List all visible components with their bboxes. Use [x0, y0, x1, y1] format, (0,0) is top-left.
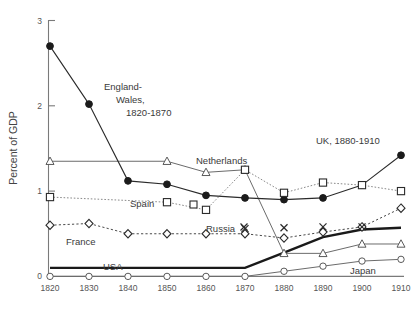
x-ticklabel-1870: 1870: [236, 283, 255, 293]
datapoint-england-wales-uk-1910: [398, 152, 405, 159]
x-ticklabel-1840: 1840: [119, 283, 138, 293]
datapoint-spain-1890: [319, 179, 326, 186]
x-ticklabel-1890: 1890: [314, 283, 333, 293]
datapoint-england-wales-uk-1870: [242, 195, 249, 202]
x-ticklabel-1850: 1850: [158, 283, 177, 293]
datapoint-japan-1890: [320, 263, 326, 269]
annotation-france: France: [66, 236, 96, 247]
annotation-netherlands: Netherlands: [196, 155, 247, 166]
datapoint-spain-1880: [280, 189, 287, 196]
annotation-russia: Russia: [206, 223, 236, 234]
datapoint-japan-1850: [164, 273, 170, 279]
y-ticklabel-0: 0: [37, 271, 42, 281]
datapoint-england-wales-uk-1830: [86, 101, 93, 108]
datapoint-france-1840: [124, 230, 132, 238]
series-line-netherlands: [50, 161, 401, 253]
datapoint-japan-1830: [86, 273, 92, 279]
datapoint-japan-1910: [398, 256, 404, 262]
annotation-usa: USA: [103, 261, 123, 272]
y-ticklabel-3: 3: [37, 16, 42, 26]
datapoint-netherlands-1850: [163, 157, 171, 164]
series-line-england-wales-uk: [50, 46, 401, 200]
x-ticklabel-1820: 1820: [41, 283, 60, 293]
chart-container: 3 2 1 0 Percent of GDP 1820 1830 1840 18…: [0, 0, 419, 314]
datapoint-england-wales-uk-1850: [164, 181, 171, 188]
annotation-england-wales-line3: 1820-1870: [126, 107, 171, 118]
datapoint-england-wales-uk-1820: [47, 43, 54, 50]
y-axis: 3 2 1 0 Percent of GDP: [7, 16, 55, 281]
datapoint-spain-1850: [163, 199, 170, 206]
annotation-marker-spain: [190, 201, 197, 208]
datapoint-japan-1860: [203, 273, 209, 279]
annotations-layer: England- Wales, 1820-1870 Netherlands Sp…: [66, 81, 380, 276]
y-axis-label: Percent of GDP: [7, 111, 19, 185]
x-ticklabel-1880: 1880: [275, 283, 294, 293]
x-ticklabel-1910: 1910: [392, 283, 411, 293]
x-ticklabel-1860: 1860: [197, 283, 216, 293]
datapoint-spain-1900: [358, 182, 365, 189]
datapoint-england-wales-uk-1880: [281, 196, 288, 203]
annotation-england-wales-line1: England-: [104, 81, 142, 92]
datapoint-france-1830: [85, 219, 93, 227]
datapoint-japan-1820: [47, 273, 53, 279]
x-ticklabel-1900: 1900: [353, 283, 372, 293]
datapoint-spain-1820: [46, 193, 53, 200]
annotation-spain: Spain: [130, 198, 154, 209]
datapoint-france-1850: [163, 230, 171, 238]
datapoint-england-wales-uk-1890: [320, 195, 327, 202]
datapoint-japan-1840: [125, 273, 131, 279]
datapoint-spain-1910: [397, 188, 404, 195]
y-ticklabel-1: 1: [37, 186, 42, 196]
line-chart: 3 2 1 0 Percent of GDP 1820 1830 1840 18…: [0, 0, 419, 314]
x-axis: 1820 1830 1840 1850 1860 1870 1880 1890 …: [41, 276, 411, 293]
datapoint-netherlands-1820: [46, 157, 54, 164]
datapoint-japan-1870: [242, 273, 248, 279]
datapoint-france-1820: [46, 221, 54, 229]
x-ticklabel-1830: 1830: [80, 283, 99, 293]
datapoint-japan-1880: [281, 268, 287, 274]
y-ticklabel-2: 2: [37, 101, 42, 111]
datapoint-japan-1900: [359, 258, 365, 264]
datapoint-france-1880: [280, 234, 288, 242]
datapoint-netherlands-1910: [397, 240, 405, 247]
datapoint-france-1910: [397, 204, 405, 212]
datapoint-netherlands-1900: [358, 240, 366, 247]
annotation-england-wales-line2: Wales,: [116, 94, 145, 105]
datapoint-spain-1860: [202, 206, 209, 213]
datapoint-england-wales-uk-1840: [125, 177, 132, 184]
annotation-japan: Japan: [350, 265, 376, 276]
annotation-uk: UK, 1880-1910: [316, 135, 380, 146]
datapoint-spain-1870: [241, 166, 248, 173]
datapoint-england-wales-uk-1860: [203, 192, 210, 199]
datapoint-russia-1880: [281, 224, 288, 231]
